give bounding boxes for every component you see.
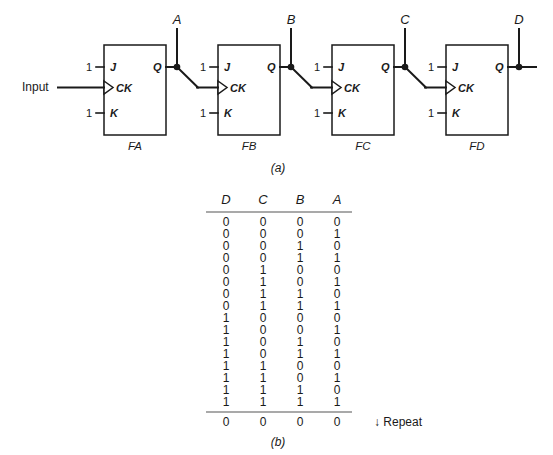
net-C-diagonal	[405, 67, 426, 88]
flipflop-FA-j-tie-label: 1	[86, 61, 92, 73]
count-table-row: 0 0 0 0	[223, 215, 341, 229]
flipflop-FD-q-label: Q	[495, 61, 504, 73]
count-table-header-D: D	[221, 192, 230, 207]
flipflop-FC-k-tie-label: 1	[314, 107, 320, 119]
count-table-row: 0 1 0 1	[223, 275, 341, 289]
net-C-junction-dot	[402, 64, 409, 71]
count-table-row: 1 1 0 0	[223, 359, 341, 373]
flipflop-FB-k-label: K	[224, 107, 233, 119]
count-table-header-B: B	[296, 192, 305, 207]
flipflop-FD-k-label: K	[452, 107, 461, 119]
flipflop-FA-body	[104, 45, 166, 135]
count-table-part-b: D C B A 0 0 0 0 0 0 0 1 0 0	[206, 192, 423, 449]
count-table-row: 1 0 0 1	[223, 323, 341, 337]
flipflop-FB-body	[218, 45, 280, 135]
flipflop-FC-j-label: J	[338, 61, 345, 73]
count-table-header-row: D C B A	[221, 192, 341, 207]
count-cell-A: 1	[334, 395, 341, 409]
flipflop-FD-j-tie-label: 1	[428, 61, 434, 73]
net-B-diagonal	[291, 67, 312, 88]
count-table-row: 1 1 1 0	[223, 383, 341, 397]
part-a-caption: (a)	[271, 161, 286, 175]
flipflop-FD-body	[446, 45, 508, 135]
net-D-node-label: D	[514, 12, 523, 27]
count-table-row: 0 0 1 1	[223, 251, 341, 265]
count-table-row: 0 0 1 0	[223, 239, 341, 253]
flipflop-FB-j-tie-label: 1	[200, 61, 206, 73]
flipflop-FA-q-label: Q	[153, 61, 162, 73]
input-label: Input	[22, 80, 49, 94]
flipflop-FC-body	[332, 45, 394, 135]
flipflop-FA-j-label: J	[110, 61, 117, 73]
part-b-caption: (b)	[271, 435, 286, 449]
flipflop-FB-k-tie-label: 1	[200, 107, 206, 119]
flipflop-FA-name: FA	[128, 140, 142, 152]
flipflop-FC-q-label: Q	[381, 61, 390, 73]
net-C-node-label: C	[400, 12, 410, 27]
flipflop-FA[interactable]: 1 J 1 K CK Q FA	[86, 45, 166, 152]
repeat-note: ↓ Repeat	[374, 415, 423, 429]
repeat-cell-A: 0	[334, 415, 341, 429]
count-table-row: 1 0 0 0	[223, 311, 341, 325]
flipflop-FC[interactable]: 1 J 1 K CK Q FC	[314, 45, 394, 152]
net-A: A	[166, 12, 218, 88]
count-table-row: 0 1 1 0	[223, 287, 341, 301]
net-C: C	[394, 12, 446, 88]
figure-root: 1 J 1 K CK Q FA 1 J	[0, 0, 553, 455]
count-table-row: 0 0 0 1	[223, 227, 341, 241]
flipflop-FA-ck-label: CK	[116, 82, 133, 94]
flipflop-FD-j-label: J	[452, 61, 459, 73]
flipflop-FC-ck-label: CK	[344, 82, 361, 94]
schematic-part-a: 1 J 1 K CK Q FA 1 J	[22, 12, 536, 175]
count-table-repeat-row: 0 0 0 0 ↓ Repeat	[223, 415, 423, 429]
input-net: Input	[22, 80, 104, 94]
net-B-junction-dot	[288, 64, 295, 71]
count-cell-C: 1	[260, 395, 267, 409]
flipflop-FD-name: FD	[469, 140, 484, 152]
flipflop-FB-j-label: J	[224, 61, 231, 73]
flipflop-FD-k-tie-label: 1	[428, 107, 434, 119]
repeat-cell-D: 0	[223, 415, 230, 429]
net-D-junction-dot	[516, 64, 523, 71]
count-table-row: 1 1 1 1	[223, 395, 341, 409]
repeat-cell-B: 0	[297, 415, 304, 429]
net-A-diagonal	[177, 67, 198, 88]
flipflop-FC-name: FC	[355, 140, 371, 152]
count-table-row: 1 0 1 0	[223, 335, 341, 349]
net-A-junction-dot	[174, 64, 181, 71]
flipflop-FB[interactable]: 1 J 1 K CK Q FB	[200, 45, 280, 152]
flipflop-FC-j-tie-label: 1	[314, 61, 320, 73]
flipflop-FB-name: FB	[242, 140, 257, 152]
count-cell-B: 1	[297, 395, 304, 409]
flipflop-FA-k-label: K	[110, 107, 119, 119]
flipflop-FD[interactable]: 1 J 1 K CK Q FD	[428, 45, 508, 152]
count-table-row: 1 1 0 1	[223, 371, 341, 385]
flipflop-FB-q-label: Q	[267, 61, 276, 73]
flipflop-FC-k-label: K	[338, 107, 347, 119]
figure-canvas: 1 J 1 K CK Q FA 1 J	[0, 0, 553, 455]
count-table-header-C: C	[258, 192, 268, 207]
count-table-row: 0 1 1 1	[223, 299, 341, 313]
net-A-node-label: A	[172, 12, 182, 27]
repeat-cell-C: 0	[260, 415, 267, 429]
net-B-node-label: B	[287, 12, 296, 27]
net-D: D	[508, 12, 536, 70]
flipflop-FB-ck-label: CK	[230, 82, 247, 94]
count-cell-D: 1	[223, 395, 230, 409]
net-B: B	[280, 12, 332, 88]
count-table-row: 0 1 0 0	[223, 263, 341, 277]
count-table-row: 1 0 1 1	[223, 347, 341, 361]
flipflop-FA-k-tie-label: 1	[86, 107, 92, 119]
flipflop-FD-ck-label: CK	[458, 82, 475, 94]
count-table-header-A: A	[332, 192, 342, 207]
